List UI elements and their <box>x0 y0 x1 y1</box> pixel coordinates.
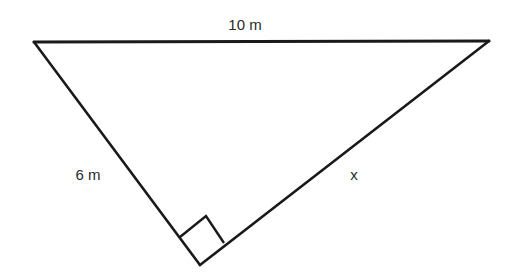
right-leg-label: x <box>350 166 358 183</box>
hypotenuse-side <box>34 41 489 42</box>
hypotenuse-label: 10 m <box>228 16 261 33</box>
left-leg-label: 6 m <box>75 166 100 183</box>
right-angle-marker-icon <box>180 216 224 243</box>
right-leg-side <box>200 41 489 265</box>
left-leg-side <box>34 42 200 265</box>
right-triangle-diagram: 10 m 6 m x <box>0 0 517 280</box>
